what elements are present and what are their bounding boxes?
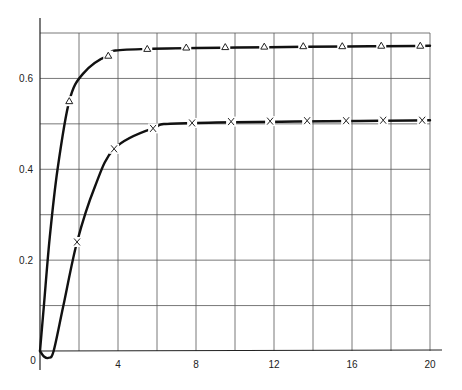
x-tick-label: 8	[193, 359, 199, 370]
x-tick-label: 20	[424, 359, 436, 370]
x-tick-label: 12	[268, 359, 280, 370]
data-markers	[64, 41, 427, 247]
axes	[40, 18, 442, 370]
x-tick-label: 16	[346, 359, 358, 370]
y-tick-label: 0.6	[19, 73, 33, 84]
grid-lines	[40, 33, 430, 351]
origin-label: 0	[30, 355, 36, 366]
y-tick-label: 0.2	[19, 255, 33, 266]
x-axis	[40, 350, 442, 351]
line-chart: 481216200.20.40.60	[0, 0, 462, 390]
x-tick-label: 4	[115, 359, 121, 370]
y-tick-label: 0.4	[19, 164, 33, 175]
